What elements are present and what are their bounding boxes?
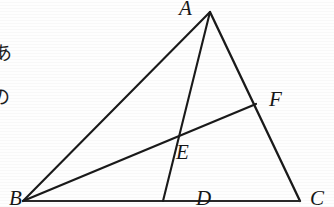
point-label-c: C — [310, 188, 324, 207]
margin-character-1: あ — [0, 44, 12, 63]
point-label-f: F — [269, 89, 282, 110]
segment-ac — [210, 12, 300, 201]
triangle-diagram-svg — [0, 0, 334, 207]
segment-ab — [23, 12, 210, 201]
margin-character-2: の — [0, 88, 10, 107]
point-label-d: D — [196, 188, 211, 207]
point-label-e: E — [176, 142, 189, 163]
geometry-figure: A F E B D C あ の — [0, 0, 334, 207]
point-label-b: B — [9, 188, 22, 207]
segment-bf-cevian — [23, 104, 256, 201]
segment-ad-cevian — [163, 12, 210, 201]
point-label-a: A — [179, 0, 192, 19]
